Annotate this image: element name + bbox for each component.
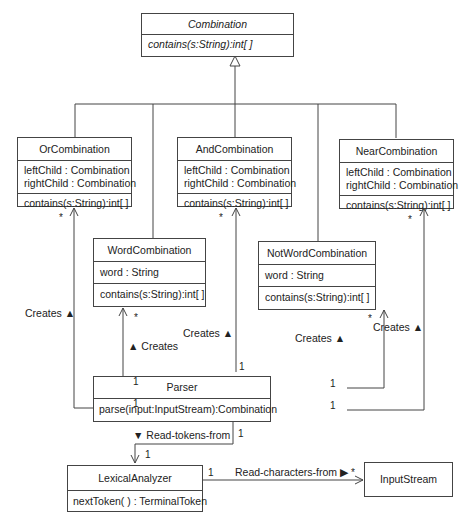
class-name: Combination	[142, 14, 293, 34]
operation: contains(s:String):int[ ]	[178, 193, 291, 213]
mult-lexer-input-one: 1	[208, 467, 214, 478]
class-and-combination: AndCombination leftChild : Combination r…	[177, 137, 292, 207]
attributes: leftChild : Combination rightChild : Com…	[340, 162, 453, 195]
class-parser: Parser parse(input:InputStream):Combinat…	[93, 376, 271, 422]
operation: contains(s:String):int[ ]	[142, 34, 293, 54]
class-name: InputStream	[365, 463, 452, 496]
mult-parser-notword-one: 1	[330, 378, 336, 389]
class-name: AndCombination	[178, 138, 291, 160]
mult-parser-word-one: 1	[133, 376, 139, 387]
mult-input-many: *	[351, 467, 355, 478]
mult-parser-and-one: 1	[239, 361, 245, 372]
mult-parser-near-one: 1	[330, 400, 336, 411]
mult-notword-many: *	[368, 313, 372, 324]
mult-parser-or-one: 1	[133, 398, 139, 409]
class-lexical-analyzer: LexicalAnalyzer nextToken( ) : TerminalT…	[67, 465, 203, 512]
class-name: OrCombination	[18, 138, 131, 160]
label-read-characters-from: Read-characters-from ▶	[235, 466, 348, 478]
mult-parser-lexer-one: 1	[238, 428, 244, 439]
attribute: leftChild : Combination	[24, 164, 125, 177]
operation: contains(s:String):int[ ]	[94, 283, 205, 305]
operation: parse(input:InputStream):Combination	[94, 398, 270, 420]
class-combination: Combination contains(s:String):int[ ]	[141, 13, 294, 57]
class-name: NearCombination	[340, 140, 453, 162]
label-read-tokens-from: ▼ Read-tokens-from	[133, 429, 230, 441]
attribute: word : String	[259, 264, 375, 286]
generalization-arrow-icon	[230, 56, 240, 66]
attribute: leftChild : Combination	[184, 164, 285, 177]
attribute: leftChild : Combination	[346, 166, 447, 179]
operation: contains(s:String):int[ ]	[259, 286, 375, 308]
attribute: rightChild : Combination	[346, 179, 447, 192]
attribute: rightChild : Combination	[24, 177, 125, 190]
label-creates-near: Creates ▲	[373, 321, 423, 333]
mult-word-many: *	[134, 312, 138, 323]
class-name: Parser	[94, 377, 270, 398]
connector-lines	[0, 0, 475, 526]
class-input-stream: InputStream	[364, 462, 453, 497]
mult-or-many: *	[59, 212, 63, 223]
class-notword-combination: NotWordCombination word : String contain…	[258, 241, 376, 310]
label-creates-and: Creates ▲	[183, 327, 233, 339]
mult-and-many: *	[219, 212, 223, 223]
mult-lexer-parser-one: 1	[145, 449, 151, 460]
class-word-combination: WordCombination word : String contains(s…	[93, 238, 206, 307]
class-name: WordCombination	[94, 239, 205, 261]
class-name: LexicalAnalyzer	[68, 466, 202, 490]
attributes: leftChild : Combination rightChild : Com…	[18, 160, 131, 193]
label-creates-notword: Creates ▲	[295, 332, 345, 344]
operation: contains(s:String):int[ ]	[18, 193, 131, 213]
label-creates-or: Creates ▲	[25, 307, 75, 319]
operation: contains(s:String):int[ ]	[340, 195, 453, 215]
operation: nextToken( ) : TerminalToken	[68, 490, 202, 512]
attributes: leftChild : Combination rightChild : Com…	[178, 160, 291, 193]
class-name: NotWordCombination	[259, 242, 375, 264]
class-or-combination: OrCombination leftChild : Combination ri…	[17, 137, 132, 207]
attribute: word : String	[94, 261, 205, 283]
label-creates-word: ▲ Creates	[128, 340, 178, 352]
class-near-combination: NearCombination leftChild : Combination …	[339, 139, 454, 209]
mult-near-many: *	[408, 214, 412, 225]
attribute: rightChild : Combination	[184, 177, 285, 190]
